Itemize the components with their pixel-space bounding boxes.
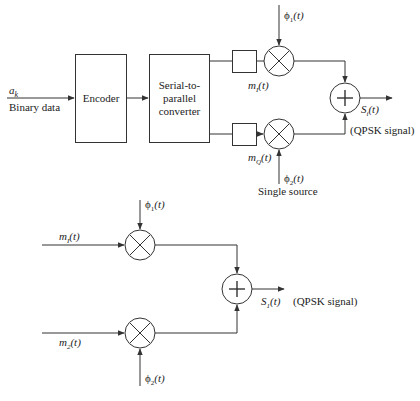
- source-note: Single source: [258, 185, 318, 197]
- output-label-top: Si(t): [361, 103, 379, 120]
- converter-label: Serial-to- parallel converter: [149, 79, 210, 118]
- phi1-label: ϕ1(t): [284, 9, 304, 26]
- encoder-label: Encoder: [75, 92, 127, 105]
- filter-box-i: [233, 51, 257, 73]
- m1-label: mI(t): [59, 230, 80, 247]
- mI-label: mI(t): [248, 79, 269, 96]
- mQ-label: mQ(t): [248, 151, 271, 168]
- phi2-label-bottom: ϕ2(t): [145, 372, 165, 389]
- input-label: Binary data: [9, 101, 60, 113]
- m2-label: m2(t): [59, 336, 81, 353]
- output-label-bottom: S1(t): [261, 295, 280, 312]
- phi1-label-bottom: ϕ1(t): [145, 198, 165, 215]
- output-note-bottom: (QPSK signal): [293, 295, 357, 307]
- filter-box-q: [233, 124, 257, 146]
- output-note-top: (QPSK signal): [350, 124, 414, 136]
- input-symbol: ak: [9, 84, 18, 101]
